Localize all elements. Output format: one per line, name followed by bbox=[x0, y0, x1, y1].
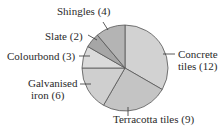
label-shingles: Shingles (4) bbox=[57, 5, 110, 17]
label-slate: Slate (2) bbox=[45, 30, 83, 42]
label-concrete-tiles: Concrete tiles (12) bbox=[178, 48, 218, 72]
label-galvanised-line2: iron (6) bbox=[28, 89, 74, 101]
label-galvanised-iron: Galvanised iron (6) bbox=[28, 77, 74, 101]
label-terracotta-tiles: Terracotta tiles (9) bbox=[113, 113, 194, 125]
label-concrete-line1: Concrete bbox=[178, 48, 218, 60]
pie-slices bbox=[82, 25, 168, 111]
label-slate-line1: Slate (2) bbox=[45, 30, 83, 42]
label-colourbond-line1: Colourbond (3) bbox=[7, 50, 75, 62]
label-galvanised-line1: Galvanised bbox=[28, 77, 74, 89]
label-terracotta-line1: Terracotta tiles (9) bbox=[113, 113, 194, 125]
label-shingles-line1: Shingles (4) bbox=[57, 5, 110, 17]
leader-line bbox=[103, 22, 108, 30]
label-concrete-line2: tiles (12) bbox=[178, 60, 218, 72]
label-colourbond: Colourbond (3) bbox=[7, 50, 75, 62]
